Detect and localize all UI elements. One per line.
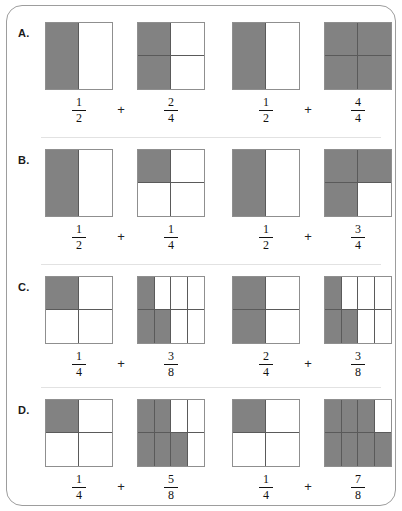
fraction-problem: 12+14 — [41, 137, 201, 264]
shaded-cell — [138, 150, 171, 183]
empty-cell — [46, 310, 79, 343]
fraction-label-left: 14 — [59, 473, 99, 501]
fraction-model-left — [232, 399, 300, 467]
plus-operator: + — [111, 356, 131, 371]
row-label: B. — [18, 154, 29, 166]
empty-cell — [266, 310, 299, 343]
shaded-cell — [325, 433, 342, 466]
plus-operator: + — [298, 229, 318, 244]
plus-operator: + — [111, 102, 131, 117]
fraction-model-left — [232, 276, 300, 344]
model-squares — [41, 22, 201, 92]
shaded-cell — [375, 433, 392, 466]
fraction-label-left: 12 — [246, 223, 286, 251]
fraction-label-right: 58 — [151, 473, 191, 501]
model-squares — [41, 149, 201, 219]
shaded-cell — [325, 277, 342, 310]
empty-cell — [171, 150, 204, 183]
shaded-cell — [358, 23, 391, 56]
denominator: 2 — [72, 237, 86, 252]
empty-cell — [188, 277, 205, 310]
fraction-label-right: 24 — [151, 96, 191, 124]
shaded-cell — [138, 277, 155, 310]
numerator: 3 — [338, 223, 378, 237]
fraction-label-right: 44 — [338, 96, 378, 124]
shaded-cell — [155, 310, 172, 343]
shaded-cell — [138, 433, 155, 466]
denominator: 8 — [164, 487, 178, 502]
fraction-expression: 14+58 — [41, 473, 201, 505]
fraction-expression: 24+38 — [228, 350, 388, 382]
fraction-model-left — [232, 22, 300, 90]
fraction-label-left: 14 — [246, 473, 286, 501]
fraction-problem: 14+78 — [228, 387, 388, 511]
problem-pairs: 12+1412+34 — [41, 137, 389, 264]
empty-cell — [188, 310, 205, 343]
numerator: 4 — [338, 96, 378, 110]
shaded-cell — [325, 183, 358, 216]
fraction-model-right — [324, 276, 392, 344]
shaded-cell — [358, 433, 375, 466]
problem-rows: A.12+2412+44B.12+1412+34C.14+3824+38D.14… — [7, 6, 395, 505]
numerator: 3 — [151, 350, 191, 364]
denominator: 4 — [72, 487, 86, 502]
fraction-problem: 12+24 — [41, 10, 201, 137]
denominator: 4 — [259, 364, 273, 379]
shaded-cell — [342, 433, 359, 466]
shaded-cell — [342, 310, 359, 343]
fraction-problem: 12+34 — [228, 137, 388, 264]
empty-cell — [138, 183, 171, 216]
fraction-expression: 14+38 — [41, 350, 201, 382]
shaded-cell — [233, 400, 266, 433]
numerator: 1 — [59, 223, 99, 237]
model-squares — [228, 399, 388, 469]
numerator: 2 — [151, 96, 191, 110]
fraction-model-right — [324, 399, 392, 467]
empty-cell — [358, 310, 375, 343]
numerator: 1 — [246, 473, 286, 487]
numerator: 1 — [59, 473, 99, 487]
problem-pairs: 14+3824+38 — [41, 264, 389, 391]
fraction-model-left — [45, 149, 113, 217]
denominator: 4 — [351, 237, 365, 252]
denominator: 4 — [351, 110, 365, 125]
shaded-cell — [46, 150, 79, 216]
worksheet-card: A.12+2412+44B.12+1412+34C.14+3824+38D.14… — [6, 5, 396, 506]
fraction-label-left: 12 — [59, 96, 99, 124]
empty-cell — [79, 277, 112, 310]
shaded-cell — [138, 400, 155, 433]
row-label: A. — [18, 27, 29, 39]
denominator: 8 — [351, 364, 365, 379]
empty-cell — [266, 400, 299, 433]
empty-cell — [79, 433, 112, 466]
problem-row: B.12+1412+34 — [7, 137, 395, 264]
fraction-label-left: 24 — [246, 350, 286, 378]
shaded-cell — [325, 150, 358, 183]
fraction-expression: 14+78 — [228, 473, 388, 505]
denominator: 4 — [259, 487, 273, 502]
row-label: D. — [18, 404, 29, 416]
shaded-cell — [325, 400, 342, 433]
fraction-model-right — [137, 276, 205, 344]
fraction-model-right — [137, 399, 205, 467]
empty-cell — [79, 400, 112, 433]
model-squares — [41, 399, 201, 469]
model-squares — [228, 276, 388, 346]
denominator: 4 — [164, 110, 178, 125]
fraction-expression: 12+34 — [228, 223, 388, 255]
shaded-cell — [46, 400, 79, 433]
shaded-cell — [155, 400, 172, 433]
shaded-cell — [138, 56, 171, 89]
fraction-expression: 12+44 — [228, 96, 388, 128]
empty-cell — [375, 400, 392, 433]
shaded-cell — [358, 400, 375, 433]
shaded-cell — [358, 56, 391, 89]
shaded-cell — [325, 56, 358, 89]
shaded-cell — [358, 150, 391, 183]
worksheet-page: A.12+2412+44B.12+1412+34C.14+3824+38D.14… — [0, 0, 402, 511]
fraction-label-left: 14 — [59, 350, 99, 378]
plus-operator: + — [111, 479, 131, 494]
shaded-cell — [233, 310, 266, 343]
numerator: 1 — [59, 96, 99, 110]
empty-cell — [171, 23, 204, 56]
